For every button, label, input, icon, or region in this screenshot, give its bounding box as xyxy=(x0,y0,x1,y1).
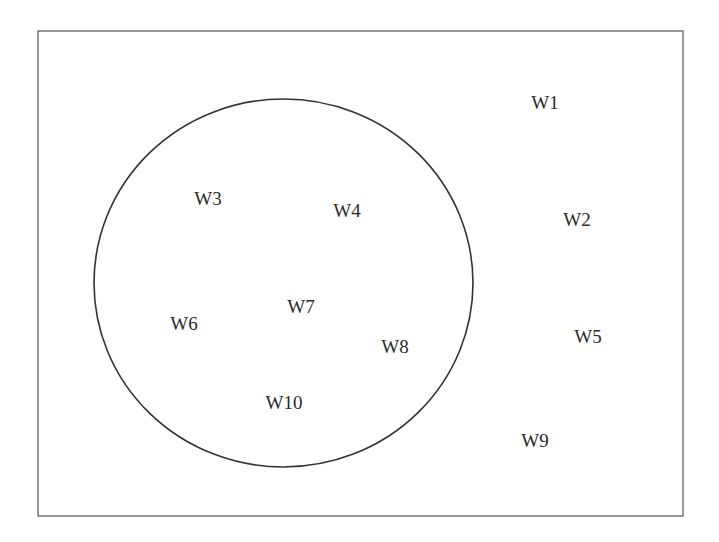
universe-frame xyxy=(38,31,683,516)
element-label-w10: W10 xyxy=(266,392,303,413)
element-label-w1: W1 xyxy=(531,92,558,113)
element-label-w4: W4 xyxy=(333,200,361,221)
element-label-w7: W7 xyxy=(287,296,314,317)
element-label-w3: W3 xyxy=(194,188,221,209)
element-label-w5: W5 xyxy=(574,326,601,347)
element-labels: W1W2W3W4W5W6W7W8W9W10 xyxy=(170,92,601,451)
element-label-w9: W9 xyxy=(521,430,548,451)
venn-diagram: W1W2W3W4W5W6W7W8W9W10 xyxy=(0,0,719,542)
element-label-w6: W6 xyxy=(170,313,197,334)
element-label-w2: W2 xyxy=(563,209,590,230)
element-label-w8: W8 xyxy=(381,336,408,357)
